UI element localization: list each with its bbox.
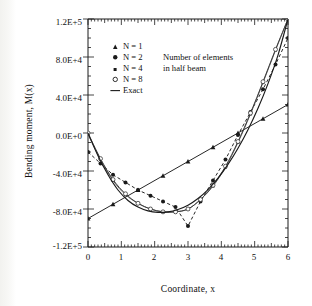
legend-entry-n1: N = 1	[123, 41, 143, 51]
x-tick-label: 3	[176, 252, 200, 262]
marker-circle-filled	[261, 87, 265, 91]
y-tick-label: 0.0E+0	[34, 131, 82, 141]
y-tick-label: -1.2E+5	[34, 241, 82, 251]
y-tick-label: -8.0E+4	[34, 207, 82, 217]
triangle-filled-icon	[113, 45, 118, 49]
marker-triangle	[161, 173, 166, 178]
marker-circle-filled	[286, 36, 290, 40]
marker-circle-open	[136, 201, 140, 205]
x-tick-label: 5	[242, 252, 266, 262]
series-n-1	[86, 102, 291, 221]
marker-circle-filled	[236, 133, 240, 137]
y-tick-label: 1.2E+5	[34, 17, 82, 27]
marker-circle-filled	[149, 194, 153, 198]
x-tick-label: 0	[76, 252, 100, 262]
x-tick-label: 4	[209, 252, 233, 262]
marker-triangle	[186, 159, 191, 164]
legend-entry-n8: N = 8	[123, 74, 143, 84]
legend-entry-exact: Exact	[123, 85, 143, 95]
annotation-line-1: Number of elements	[163, 52, 233, 62]
circle-open-icon	[113, 77, 117, 81]
x-tick-label: 6	[276, 252, 300, 262]
marker-circle-open	[149, 207, 153, 211]
legend-entry-n4: N = 4	[123, 63, 143, 73]
marker-circle-filled	[124, 180, 128, 184]
x-tick-label: 2	[142, 252, 166, 262]
y-axis-title: Bending moment, M(x)	[24, 56, 34, 206]
x-tick-label: 1	[109, 252, 133, 262]
marker-triangle	[111, 202, 116, 207]
marker-circle-filled	[136, 188, 140, 192]
marker-circle-filled	[161, 199, 165, 203]
circle-filled-icon	[113, 55, 117, 59]
square-small-icon	[114, 68, 117, 71]
marker-circle-filled	[186, 224, 190, 228]
marker-circle-open	[124, 192, 128, 196]
y-tick-label: 4.0E+4	[34, 93, 82, 103]
y-tick-label: -4.0E+4	[34, 169, 82, 179]
chart-figure: 1.2E+5 8.0E+4 4.0E+4 0.0E+0 -4.0E+4 -8.0…	[0, 0, 312, 306]
annotation-line-2: in half beam	[163, 63, 206, 73]
marker-circle-open	[249, 111, 253, 115]
marker-circle-filled	[111, 173, 115, 177]
marker-circle-filled	[174, 205, 178, 209]
marker-circle-open	[186, 207, 190, 211]
legend-entry-n2: N = 2	[123, 52, 143, 62]
marker-circle-open	[236, 140, 240, 144]
marker-circle-open	[261, 80, 265, 84]
marker-triangle	[211, 145, 216, 150]
x-axis-title: Coordinate, x	[88, 284, 288, 294]
marker-triangle	[261, 116, 266, 121]
marker-circle-filled	[224, 158, 228, 162]
marker-circle-filled	[86, 150, 90, 154]
y-tick-label: 8.0E+4	[34, 55, 82, 65]
marker-circle-open	[274, 47, 278, 51]
